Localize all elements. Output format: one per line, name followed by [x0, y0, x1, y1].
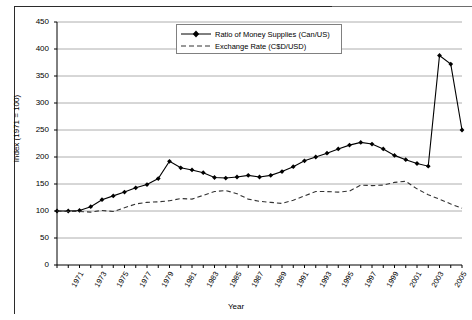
series-line-0: [57, 55, 462, 211]
y-axis-tick-label: 250: [23, 125, 49, 134]
y-axis-tick-label: 100: [23, 206, 49, 215]
series-line-1: [57, 181, 462, 212]
chart-figure: Ratio of Money Supplies (Can/US) Exchang…: [0, 0, 472, 320]
series-marker-0: [403, 157, 408, 162]
y-axis-tick-label: 350: [23, 71, 49, 80]
series-marker-0: [460, 128, 465, 133]
legend-label-money-supplies: Ratio of Money Supplies (Can/US): [215, 30, 330, 39]
y-axis-tick-label: 400: [23, 44, 49, 53]
series-marker-0: [212, 175, 217, 180]
legend-label-exchange-rate: Exchange Rate (C$D/USD): [215, 42, 306, 51]
series-marker-0: [111, 193, 116, 198]
series-marker-0: [246, 173, 251, 178]
series-marker-0: [201, 170, 206, 175]
series-marker-0: [122, 190, 127, 195]
y-axis-tick-label: 450: [23, 17, 49, 26]
series-marker-0: [291, 164, 296, 169]
series-marker-0: [280, 169, 285, 174]
series-marker-0: [370, 142, 375, 147]
series-marker-0: [223, 176, 228, 181]
series-marker-0: [235, 175, 240, 180]
series-marker-0: [133, 185, 138, 190]
y-axis-tick-label: 300: [23, 98, 49, 107]
series-marker-0: [415, 161, 420, 166]
legend-entry-money-supplies: Ratio of Money Supplies (Can/US): [181, 28, 337, 40]
legend-entry-exchange-rate: Exchange Rate (C$D/USD): [181, 40, 337, 52]
series-marker-0: [257, 175, 262, 180]
y-axis-tick-label: 150: [23, 179, 49, 188]
series-marker-0: [358, 140, 363, 145]
y-axis-tick-label: 0: [23, 260, 49, 269]
y-axis-title: Index (1971 = 100): [12, 89, 21, 169]
series-marker-0: [313, 155, 318, 160]
series-marker-0: [145, 182, 150, 187]
x-axis-title: Year: [0, 302, 472, 311]
series-marker-0: [325, 151, 330, 156]
chart-legend: Ratio of Money Supplies (Can/US) Exchang…: [176, 24, 342, 54]
y-axis-tick-label: 50: [23, 233, 49, 242]
series-marker-0: [268, 173, 273, 178]
series-marker-0: [178, 165, 183, 170]
legend-swatch-dashed: [181, 41, 211, 51]
series-marker-0: [426, 164, 431, 169]
legend-swatch-solid-diamond: [181, 29, 211, 39]
series-marker-0: [302, 158, 307, 163]
series-marker-0: [336, 147, 341, 152]
series-marker-0: [190, 168, 195, 173]
series-marker-0: [381, 147, 386, 152]
y-axis-tick-label: 200: [23, 152, 49, 161]
series-marker-0: [347, 143, 352, 148]
